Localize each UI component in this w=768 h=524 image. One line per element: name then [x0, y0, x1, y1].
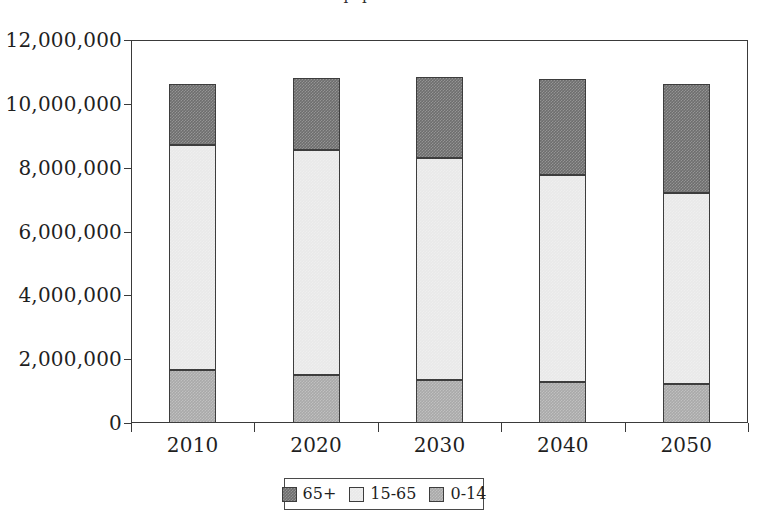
y-tick-label: 12,000,000: [5, 30, 122, 50]
x-tick-mark: [625, 423, 626, 432]
legend-swatch-65plus: [282, 487, 297, 502]
bar-segment-15-65-2040: [539, 175, 586, 382]
y-tick-label: 0: [109, 413, 122, 433]
bar-segment-0-14-2030: [416, 380, 463, 423]
bar-segment-15-65-2050: [663, 193, 710, 385]
bar-segment-0-14-2010: [169, 370, 216, 423]
x-tick-mark: [254, 423, 255, 432]
y-tick-label: 2,000,000: [18, 349, 122, 369]
chart-title-text: population: [343, 0, 424, 3]
y-tick-mark: [124, 40, 131, 41]
bar-segment-15-65-2020: [293, 150, 340, 375]
x-tick-label-2010: 2010: [143, 434, 243, 456]
bar-segment-0-14-2050: [663, 384, 710, 423]
legend-swatch-0-14: [429, 487, 444, 502]
y-tick-label: 8,000,000: [18, 158, 122, 178]
chart-legend: 65+15-650-14: [284, 478, 484, 510]
bar-segment-65plus-2050: [663, 84, 710, 193]
x-tick-mark: [378, 423, 379, 432]
x-tick-mark: [131, 423, 132, 432]
bar-segment-15-65-2030: [416, 158, 463, 380]
population-projection-stacked-bar-chart: population 02,000,0004,000,0006,000,0008…: [0, 0, 768, 524]
x-tick-label-2030: 2030: [390, 434, 490, 456]
legend-label-0-14: 0-14: [450, 486, 486, 502]
y-tick-mark: [124, 104, 131, 105]
y-tick-mark: [124, 295, 131, 296]
y-tick-label: 10,000,000: [5, 94, 122, 114]
y-tick-label: 6,000,000: [18, 222, 122, 242]
bar-segment-0-14-2020: [293, 375, 340, 423]
legend-item-15-65: 15-65: [349, 486, 416, 502]
bar-segment-0-14-2040: [539, 382, 586, 423]
bar-segment-65plus-2030: [416, 77, 463, 158]
legend-swatch-15-65: [349, 487, 364, 502]
y-tick-label: 4,000,000: [18, 285, 122, 305]
y-tick-mark: [124, 423, 131, 424]
bar-segment-15-65-2010: [169, 145, 216, 370]
y-tick-mark: [124, 232, 131, 233]
x-tick-label-2020: 2020: [266, 434, 366, 456]
legend-item-0-14: 0-14: [429, 486, 486, 502]
bar-segment-65plus-2010: [169, 84, 216, 145]
x-tick-label-2050: 2050: [636, 434, 736, 456]
y-tick-mark: [124, 359, 131, 360]
x-tick-label-2040: 2040: [513, 434, 613, 456]
y-tick-mark: [124, 168, 131, 169]
x-tick-mark: [748, 423, 749, 432]
x-tick-mark: [501, 423, 502, 432]
bar-segment-65plus-2020: [293, 78, 340, 150]
legend-label-15-65: 15-65: [370, 486, 416, 502]
chart-title-fragment: population: [0, 0, 768, 14]
legend-label-65plus: 65+: [303, 486, 337, 502]
legend-item-65plus: 65+: [282, 486, 337, 502]
bar-segment-65plus-2040: [539, 79, 586, 175]
